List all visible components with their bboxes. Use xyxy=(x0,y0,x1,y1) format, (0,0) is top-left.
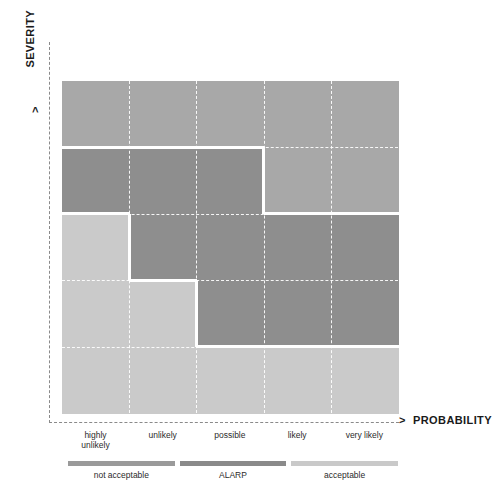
legend-swatch xyxy=(68,461,175,466)
x-tick-label-line: likely xyxy=(264,430,331,440)
matrix-cell xyxy=(331,81,399,148)
gridline-vertical xyxy=(196,81,197,413)
matrix-cell xyxy=(331,214,399,281)
y-axis-arrow-icon: > xyxy=(30,103,40,113)
zone-separator-horizontal xyxy=(129,279,197,282)
gridline-vertical xyxy=(264,81,265,413)
matrix-cell xyxy=(129,347,197,414)
legend-swatch xyxy=(180,461,287,466)
legend-label: not acceptable xyxy=(68,470,175,480)
matrix-cell xyxy=(264,280,332,347)
x-axis-title: PROBABILITY xyxy=(413,414,492,426)
matrix-cell xyxy=(196,81,264,148)
matrix-cell xyxy=(196,347,264,414)
matrix-cell xyxy=(62,81,130,148)
matrix-cell xyxy=(129,214,197,281)
zone-separator-horizontal xyxy=(62,212,130,215)
gridline-horizontal xyxy=(62,280,398,281)
y-axis-line xyxy=(49,42,50,423)
matrix-cell xyxy=(264,147,332,214)
matrix-cell xyxy=(129,280,197,347)
zone-separator-horizontal xyxy=(331,212,399,215)
x-tick-label-line: unlikely xyxy=(129,430,196,440)
legend-swatch xyxy=(291,461,398,466)
x-tick-label-line: very likely xyxy=(331,430,398,440)
matrix-cell xyxy=(62,280,130,347)
zone-separator-horizontal xyxy=(196,345,264,348)
x-tick-label-line: unlikely xyxy=(62,440,129,450)
matrix-cell xyxy=(196,214,264,281)
x-tick-label: highlyunlikely xyxy=(62,430,129,450)
matrix-cell xyxy=(264,81,332,148)
matrix-cell xyxy=(196,280,264,347)
matrix-cell xyxy=(129,81,197,148)
x-tick-label: very likely xyxy=(331,430,398,440)
x-tick-label: likely xyxy=(264,430,331,440)
zone-separator-vertical xyxy=(195,280,198,347)
x-tick-label: unlikely xyxy=(129,430,196,440)
x-tick-labels: highlyunlikelyunlikelypossiblelikelyvery… xyxy=(62,430,398,456)
x-axis-line xyxy=(49,422,399,423)
legend-label: acceptable xyxy=(291,470,398,480)
x-axis-arrow-icon: > xyxy=(399,414,405,426)
zone-separator-vertical xyxy=(128,214,131,281)
y-axis-title: SEVERITY xyxy=(24,10,42,100)
matrix-cell xyxy=(62,147,130,214)
matrix-cell xyxy=(331,147,399,214)
matrix-cell xyxy=(331,347,399,414)
zone-separator-horizontal xyxy=(196,146,264,149)
legend-label: ALARP xyxy=(180,470,287,480)
matrix-plot-area xyxy=(62,81,398,413)
matrix-cell xyxy=(196,147,264,214)
gridline-vertical xyxy=(331,81,332,413)
zone-separator-horizontal xyxy=(264,345,332,348)
matrix-cell xyxy=(129,147,197,214)
zone-separator-horizontal xyxy=(331,345,399,348)
matrix-cell xyxy=(62,347,130,414)
matrix-cell xyxy=(62,214,130,281)
zone-separator-horizontal xyxy=(264,212,332,215)
x-tick-label-line: possible xyxy=(196,430,263,440)
matrix-cell xyxy=(264,214,332,281)
matrix-cell xyxy=(331,280,399,347)
legend: not acceptableALARPacceptable xyxy=(0,461,485,491)
matrix-cell xyxy=(264,347,332,414)
zone-separator-horizontal xyxy=(62,146,130,149)
x-tick-label-line: highly xyxy=(62,430,129,440)
zone-separator-horizontal xyxy=(129,146,197,149)
x-tick-label: possible xyxy=(196,430,263,440)
zone-separator-vertical xyxy=(262,147,265,214)
